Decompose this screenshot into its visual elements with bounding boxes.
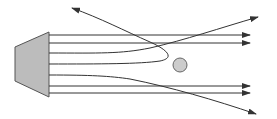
scattering-diagram — [0, 0, 277, 119]
target-sphere — [173, 58, 187, 72]
ray-group — [49, 8, 258, 114]
particle-source — [15, 32, 49, 97]
ray-4-arrow — [49, 8, 168, 64]
ray-5-arrow — [49, 75, 256, 114]
